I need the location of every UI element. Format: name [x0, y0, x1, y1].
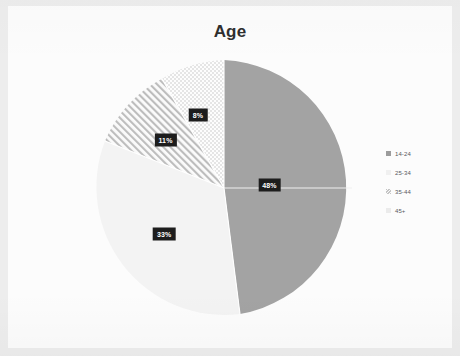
legend-label-35-44: 35-44 — [395, 189, 411, 195]
pie-slice-14-24 — [224, 60, 346, 314]
legend-item-25-34[interactable]: 25-34 — [386, 163, 452, 182]
pie-svg — [94, 58, 354, 318]
legend-label-14-24: 14-24 — [395, 151, 411, 157]
chart-canvas: Age — [0, 0, 460, 356]
legend-swatch-gray-icon — [386, 151, 391, 156]
slice-value-label-14-24: 48% — [258, 179, 281, 192]
legend-item-35-44[interactable]: 35-44 — [386, 182, 452, 201]
slice-value-label-45-plus: 8% — [189, 109, 208, 122]
legend-swatch-light-icon — [386, 170, 391, 175]
chart-legend: 14-24 25-34 35-44 45+ — [386, 144, 452, 220]
legend-item-45-plus[interactable]: 45+ — [386, 201, 452, 220]
pie-chart: 48% 33% 11% 8% — [94, 58, 354, 318]
slice-value-label-35-44: 11% — [154, 133, 176, 146]
slice-value-label-25-34: 33% — [153, 228, 176, 241]
legend-label-25-34: 25-34 — [395, 170, 411, 176]
legend-item-14-24[interactable]: 14-24 — [386, 144, 452, 163]
legend-swatch-dots-icon — [386, 208, 391, 213]
chart-title: Age — [0, 22, 460, 42]
legend-swatch-hatch-icon — [386, 189, 391, 194]
legend-label-45-plus: 45+ — [395, 208, 405, 214]
